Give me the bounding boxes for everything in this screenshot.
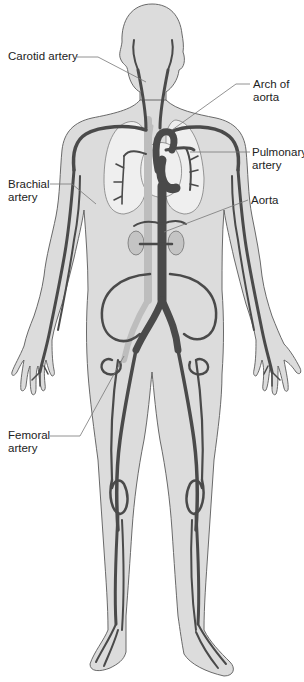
label-line: Arch of — [253, 78, 289, 91]
label-line: Carotid artery — [8, 50, 78, 63]
label-brachial-artery: Brachial artery — [8, 178, 50, 204]
label-line: Brachial — [8, 178, 50, 191]
label-aorta: Aorta — [251, 194, 279, 207]
label-line: artery — [252, 159, 304, 172]
label-line: Aorta — [251, 194, 279, 207]
label-carotid-artery: Carotid artery — [8, 50, 78, 63]
label-line: artery — [8, 191, 50, 204]
label-line: Pulmonary — [252, 146, 304, 159]
label-pulmonary-artery: Pulmonary artery — [252, 146, 304, 172]
label-line: Femoral — [8, 429, 50, 442]
label-arch-of-aorta: Arch of aorta — [253, 78, 289, 104]
label-line: artery — [8, 442, 50, 455]
label-femoral-artery: Femoral artery — [8, 429, 50, 455]
label-line: aorta — [253, 91, 289, 104]
body-silhouette — [12, 4, 301, 676]
